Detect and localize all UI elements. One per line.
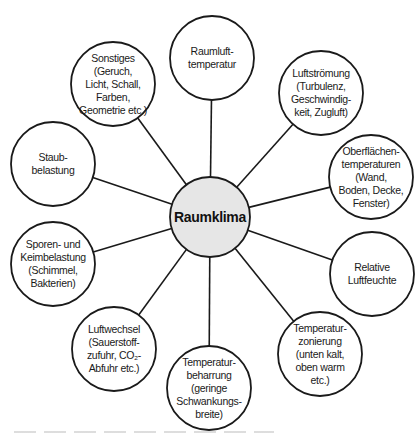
connector-line (235, 248, 294, 321)
connector-line (138, 118, 187, 185)
connector-line (93, 177, 172, 204)
node-luftstroemung: Luftströmung (Turbulenz, Geschwindig- ke… (282, 54, 360, 132)
node-staubbelastung: Staub- belastung (14, 125, 92, 203)
node-sporen-keimbelastung: Sporen- und Keimbelastung (Schimmel, Bak… (14, 225, 92, 303)
node-relative-luftfeuchte: Relative Luftfeuchte (333, 235, 411, 313)
node-sonstiges: Sonstiges (Geruch, Licht, Schall, Farben… (74, 45, 152, 123)
connector-line (211, 100, 212, 177)
clipped-caption (14, 427, 274, 433)
connector-line (139, 249, 187, 315)
center-node-raumklima: Raumklima (170, 177, 250, 257)
node-raumlufttemperatur: Raumluft- temperatur (173, 19, 251, 97)
connector-line (209, 257, 210, 346)
node-luftwechsel: Luftwechsel (Sauerstoff- zufuhr, CO₂- Ab… (75, 310, 153, 388)
node-temperaturbeharrung: Temperatur- beharrung (geringe Schwankun… (170, 349, 248, 427)
connector-line (249, 187, 330, 207)
node-temperaturzonierung: Temperatur- zonierung (unten kalt, oben … (281, 315, 359, 393)
node-oberflaechentemperaturen: Oberflächen- temperaturen (Wand, Boden, … (332, 138, 410, 216)
connector-line (93, 228, 171, 251)
connector-line (248, 230, 333, 260)
raumklima-mind-map: Raumluft- temperatur Luftströmung (Turbu… (0, 0, 419, 433)
